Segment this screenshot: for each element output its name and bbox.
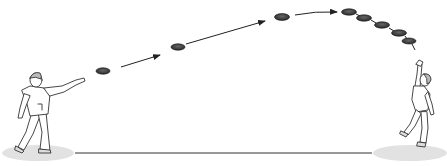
catcher-figure — [400, 60, 434, 147]
frisbee-icon — [402, 38, 416, 44]
thrower-shadow — [2, 145, 74, 161]
arrow-icon — [186, 21, 265, 44]
frisbee-illustration — [0, 0, 447, 166]
arrow-icon — [121, 55, 160, 67]
frisbee-icon — [392, 30, 407, 36]
frisbee-icon — [171, 44, 185, 50]
arrow-icon — [295, 12, 337, 15]
thrower-figure — [15, 73, 85, 153]
illustration-canvas — [0, 0, 447, 166]
catcher-shadow — [373, 145, 447, 161]
frisbee-discs — [96, 9, 416, 74]
frisbee-icon — [375, 22, 390, 28]
frisbee-icon — [342, 9, 357, 15]
frisbee-icon — [357, 15, 372, 21]
frisbee-icon — [275, 14, 290, 21]
trajectory-arrows — [121, 12, 415, 67]
frisbee-icon — [96, 68, 110, 74]
